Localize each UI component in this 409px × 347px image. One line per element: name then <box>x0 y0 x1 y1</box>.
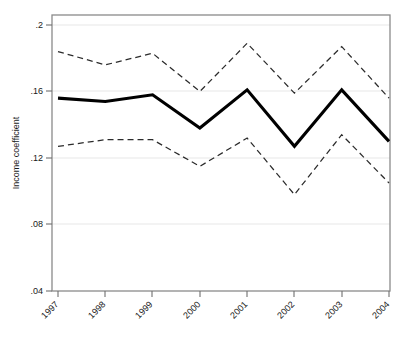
y-tick-label-0.04: .04 <box>30 286 43 296</box>
y-tick-label-0.12: .12 <box>30 153 43 163</box>
income-coefficient-chart: .2 .16 .12 .08 .04 Income coefficient 19… <box>0 0 409 347</box>
y-axis-title: Income coefficient <box>11 116 21 189</box>
y-tick-label-0.2: .2 <box>35 20 43 30</box>
y-tick-label-0.08: .08 <box>30 219 43 229</box>
y-tick-label-0.16: .16 <box>30 86 43 96</box>
